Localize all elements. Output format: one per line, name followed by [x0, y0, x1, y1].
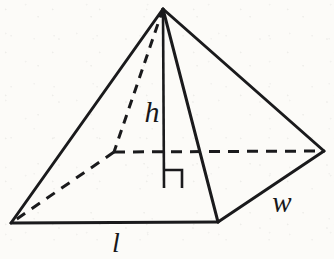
length-label: l: [112, 227, 120, 258]
edge-apex-to-back-hidden: [114, 9, 163, 152]
edge-base-back-right-hidden: [114, 151, 324, 152]
pyramid-diagram-svg: h l w: [0, 0, 334, 259]
edge-apex-to-front-right: [163, 9, 218, 222]
edge-apex-to-front-left: [11, 9, 163, 223]
edge-base-right-front: [218, 151, 324, 222]
width-label: w: [272, 186, 292, 218]
edge-base-back-left-hidden: [11, 152, 114, 223]
edge-base-front: [11, 222, 218, 223]
height-label: h: [145, 95, 160, 128]
pyramid-figure: h l w: [0, 0, 334, 259]
edge-apex-to-right: [163, 9, 324, 151]
height-altitude-line: [163, 9, 164, 188]
right-angle-square: [164, 170, 182, 188]
